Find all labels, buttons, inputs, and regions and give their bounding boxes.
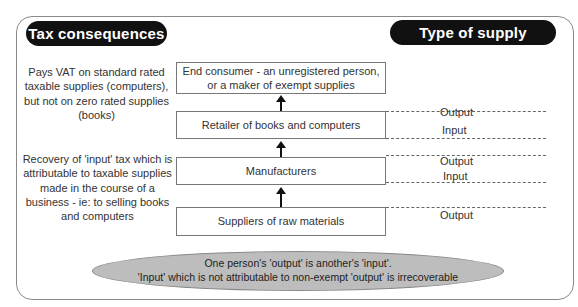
end-consumer-tax-note: Pays VAT on standard rated taxable suppl… [24,65,169,122]
manufacturer-input-divider [386,182,546,183]
arrow-up-icon [280,147,282,157]
retailer-box: Retailer of books and computers [176,111,386,139]
manufacturer-output-label: Output [440,155,473,167]
end-consumer-box: End consumer - an unregistered person, o… [176,62,386,94]
business-tax-note: Recovery of 'input' tax which is attribu… [20,152,175,223]
type-of-supply-header: Type of supply [390,20,556,45]
retailer-output-label: Output [440,106,473,118]
suppliers-box: Suppliers of raw materials [176,207,386,236]
arrow-up-icon [280,101,282,111]
retailer-input-divider [386,138,546,139]
tax-consequences-header: Tax consequences [26,21,167,46]
supplier-output-divider [386,207,546,208]
manufacturer-input-label: Input [443,170,467,182]
manufacturers-box: Manufacturers [176,157,386,185]
arrow-up-icon [280,193,282,207]
retailer-input-label: Input [442,124,466,136]
supplier-output-label: Output [440,209,473,221]
summary-ellipse: One person's 'output' is another's 'inpu… [92,251,504,291]
summary-line-1: One person's 'output' is another's 'inpu… [204,257,391,271]
summary-line-2: 'Input' which is not attributable to non… [138,271,458,285]
